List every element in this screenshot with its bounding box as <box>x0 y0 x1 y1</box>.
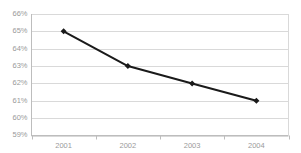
y-axis-tick-label: 62% <box>12 78 27 87</box>
y-axis-tick-label: 64% <box>12 44 27 53</box>
y-axis-tick-label: 66% <box>12 9 27 18</box>
y-axis-tick-label: 63% <box>12 61 27 70</box>
y-axis-tick-label: 65% <box>12 26 27 35</box>
x-axis-tick-label: 2004 <box>248 141 265 150</box>
y-axis-tick-label: 59% <box>12 130 27 139</box>
line-chart: 66%65%64%63%62%61%60%59% 200120022003200… <box>0 0 301 153</box>
x-axis-tick-label: 2002 <box>120 141 137 150</box>
chart-canvas: 66%65%64%63%62%61%60%59% 200120022003200… <box>0 0 301 153</box>
x-axis-tick-label: 2001 <box>55 141 72 150</box>
chart-background <box>0 0 301 153</box>
y-axis-tick-label: 60% <box>12 113 27 122</box>
y-axis-tick-label: 61% <box>12 96 27 105</box>
x-axis-tick-label: 2003 <box>184 141 201 150</box>
